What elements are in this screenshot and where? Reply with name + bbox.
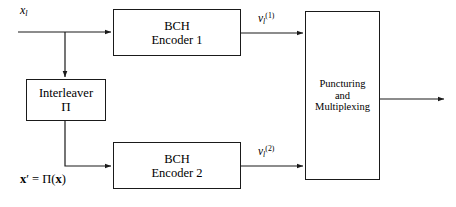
label-encoder1-output: vl(1) xyxy=(258,11,274,26)
equation-pi-symbol: Π xyxy=(42,172,51,186)
block-puncturing-line2: and xyxy=(335,90,350,102)
block-bch-encoder-1: BCH Encoder 1 xyxy=(113,9,241,56)
block-bch-encoder-1-line1: BCH xyxy=(164,19,190,33)
block-bch-encoder-2-line1: BCH xyxy=(164,152,190,166)
label-v2-superscript: (2) xyxy=(265,144,274,153)
block-interleaver: Interleaver Π xyxy=(26,79,106,121)
block-puncturing-line1: Puncturing xyxy=(319,78,365,90)
equation-close-paren: ) xyxy=(62,172,66,186)
label-input-signal: xl xyxy=(20,3,28,18)
equation-prime: ′ xyxy=(26,172,29,186)
block-interleaver-pi-symbol: Π xyxy=(61,100,70,115)
label-interleaved-sequence-equation: x′ = Π(x) xyxy=(20,172,66,187)
block-bch-encoder-2-line2: Encoder 2 xyxy=(151,166,202,180)
figure-canvas: BCH Encoder 1 BCH Encoder 2 Interleaver … xyxy=(0,0,456,207)
block-interleaver-line1: Interleaver xyxy=(39,86,93,100)
block-bch-encoder-1-line2: Encoder 1 xyxy=(151,33,202,47)
label-v1-superscript: (1) xyxy=(265,11,274,20)
block-puncturing-line3: Multiplexing xyxy=(315,101,370,113)
block-bch-encoder-2: BCH Encoder 2 xyxy=(113,142,241,189)
equation-equals: = xyxy=(32,172,39,186)
block-puncturing-and-multiplexing: Puncturing and Multiplexing xyxy=(305,11,380,180)
wire-interleaver-to-encoder2 xyxy=(65,121,111,166)
label-encoder2-output: vl(2) xyxy=(258,144,274,159)
label-input-subscript: l xyxy=(25,9,27,18)
